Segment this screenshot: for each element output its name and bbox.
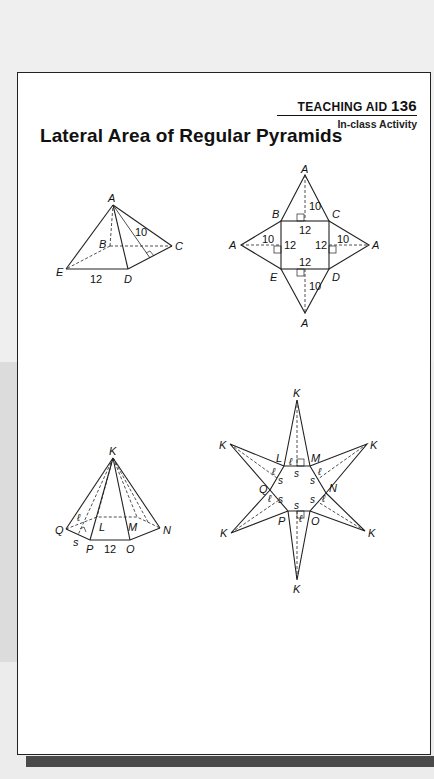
net-apex-bottom: A bbox=[300, 317, 308, 329]
star-l-top: ℓ bbox=[288, 456, 293, 467]
star-label-Q: Q bbox=[259, 483, 268, 495]
star-s-lr: s bbox=[310, 494, 315, 505]
net-edge-left: 12 bbox=[284, 239, 296, 251]
net-edge-top: 12 bbox=[299, 224, 311, 236]
hex-base-edge: 12 bbox=[104, 543, 116, 555]
net-edge-right: 12 bbox=[315, 239, 327, 251]
label-O: O bbox=[126, 543, 135, 555]
label-D: D bbox=[124, 273, 132, 285]
label-B: B bbox=[99, 238, 106, 250]
net-label-E: E bbox=[270, 271, 278, 283]
star-label-M: M bbox=[311, 452, 321, 464]
slant-height-label: 10 bbox=[135, 226, 147, 238]
net-label-D: D bbox=[332, 271, 340, 283]
hexagonal-pyramid-figure bbox=[66, 458, 160, 540]
base-edge-label: 12 bbox=[90, 273, 102, 285]
star-K-lower-left: K bbox=[220, 527, 228, 539]
net-apex-right: A bbox=[371, 239, 379, 251]
label-Q: Q bbox=[55, 524, 64, 536]
label-P: P bbox=[86, 543, 94, 555]
net-slant-top: 10 bbox=[309, 200, 321, 212]
hexagonal-net-figure bbox=[230, 400, 367, 580]
label-A: A bbox=[107, 192, 115, 204]
star-K-lower-right: K bbox=[368, 527, 376, 539]
net-label-C: C bbox=[332, 208, 340, 220]
label-K: K bbox=[109, 445, 117, 457]
figures-canvas: A B C D E 12 10 A A A A B C D E 12 12 12… bbox=[0, 0, 434, 779]
square-pyramid-figure bbox=[66, 205, 172, 269]
net-slant-right: 10 bbox=[337, 233, 349, 245]
net-slant-left: 10 bbox=[262, 233, 274, 245]
star-label-N: N bbox=[329, 482, 337, 494]
label-M: M bbox=[128, 521, 138, 533]
net-apex-left: A bbox=[228, 239, 236, 251]
net-edge-bottom: 12 bbox=[299, 256, 311, 268]
star-K-upper-right: K bbox=[370, 439, 378, 451]
star-l-bottom: ℓ bbox=[298, 513, 303, 524]
star-l-ll: ℓ bbox=[267, 493, 272, 504]
star-s-top: s bbox=[294, 468, 299, 479]
net-label-B: B bbox=[272, 208, 279, 220]
star-l-ul: ℓ bbox=[271, 466, 276, 477]
label-E: E bbox=[56, 266, 64, 278]
star-s-ur: s bbox=[310, 475, 315, 486]
star-label-P: P bbox=[278, 515, 286, 527]
star-label-O: O bbox=[311, 515, 320, 527]
label-L: L bbox=[99, 521, 105, 533]
label-N: N bbox=[163, 524, 171, 536]
star-K-top: K bbox=[293, 387, 301, 399]
star-s-ll: s bbox=[278, 494, 283, 505]
star-K-bottom: K bbox=[293, 583, 301, 595]
net-apex-top: A bbox=[300, 163, 308, 175]
star-l-ur: ℓ bbox=[317, 466, 322, 477]
star-s-ul: s bbox=[278, 475, 283, 486]
label-C: C bbox=[175, 240, 183, 252]
hex-side-s: s bbox=[73, 536, 79, 548]
hex-slant-l: ℓ bbox=[76, 512, 81, 523]
star-K-upper-left: K bbox=[219, 439, 227, 451]
net-slant-bottom: 10 bbox=[309, 280, 321, 292]
square-net-figure bbox=[241, 175, 369, 313]
star-s-bottom: s bbox=[294, 500, 299, 511]
star-label-L: L bbox=[276, 452, 282, 464]
